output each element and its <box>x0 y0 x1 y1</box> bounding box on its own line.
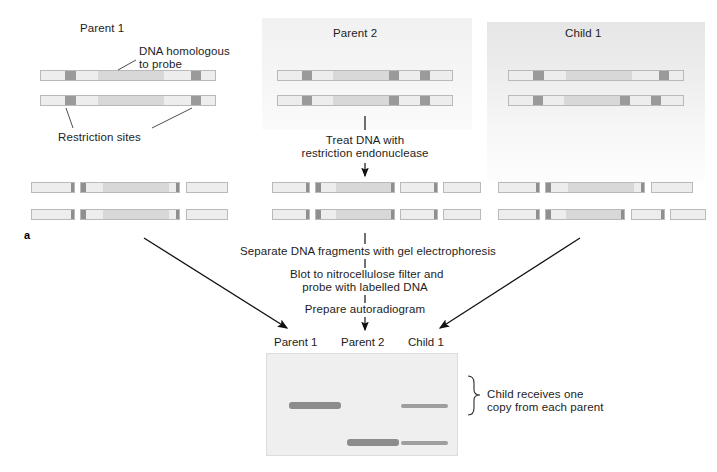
step-treat-line1: Treat DNA with <box>315 134 415 148</box>
probe-label-line1: DNA homologous <box>139 45 230 59</box>
step-blot-line2: probe with labelled DNA <box>290 281 440 295</box>
parent1-chromosome-top <box>40 70 216 81</box>
step-separate: Separate DNA fragments with gel electrop… <box>240 245 490 259</box>
panel-title-child1: Child 1 <box>565 27 602 39</box>
panel-title-parent2: Parent 2 <box>333 27 377 39</box>
restriction-sites-label: Restriction sites <box>58 131 141 145</box>
conclusion-bracket <box>468 376 480 415</box>
gel-lane-label-parent2: Parent 2 <box>341 336 384 348</box>
gel-band-parent2-low <box>347 439 399 446</box>
step-treat-line2: restriction endonuclease <box>290 147 440 161</box>
restriction-leader-left <box>66 108 73 128</box>
parent2-chromosome-top <box>277 70 453 81</box>
step-blot-line1: Blot to nitrocellulose filter and <box>290 268 440 282</box>
gel-band-parent1-high <box>289 402 341 409</box>
step-autoradiogram: Prepare autoradiogram <box>300 303 430 317</box>
restriction-leader-right <box>152 108 192 128</box>
conclusion-line1: Child receives one <box>487 388 583 402</box>
child1-fragments-background <box>487 130 705 182</box>
rflp-figure: Parent 1 Parent 2 Child 1 DNA homologous… <box>0 0 717 472</box>
panel-letter-a: a <box>24 229 30 241</box>
gel-band-child1-low <box>401 441 448 445</box>
panel-title-parent1: Parent 1 <box>80 22 124 34</box>
gel-lane-label-child1: Child 1 <box>408 336 444 348</box>
parent2-chromosome-bottom <box>277 95 453 106</box>
conclusion-line2: copy from each parent <box>487 401 604 415</box>
autoradiogram-gel <box>266 353 458 456</box>
parent1-chromosome-bottom <box>40 95 216 106</box>
child1-chromosome-top <box>508 70 684 81</box>
probe-leader-line <box>118 60 136 70</box>
child1-chromosome-bottom <box>508 95 684 106</box>
gel-band-child1-high <box>401 404 448 408</box>
gel-lane-label-parent1: Parent 1 <box>274 336 317 348</box>
